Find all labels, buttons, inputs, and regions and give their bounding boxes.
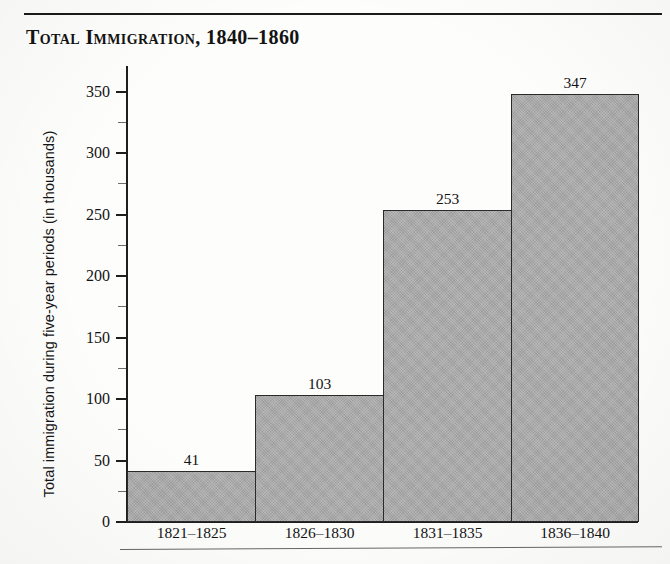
bar-1831-1835 bbox=[383, 210, 512, 522]
x-category-label-2: 1831–1835 bbox=[383, 525, 512, 541]
y-tick-minor-125 bbox=[118, 368, 126, 369]
x-category-label-0: 1821–1825 bbox=[127, 525, 256, 541]
y-tick-major-150 bbox=[116, 337, 127, 339]
x-category-label-3: 1836–1840 bbox=[511, 525, 639, 541]
y-tick-minor-325 bbox=[118, 122, 126, 123]
y-tick-label-350: 350 bbox=[66, 84, 110, 100]
bar-value-1831-1835: 253 bbox=[383, 191, 512, 207]
y-tick-minor-25 bbox=[118, 491, 126, 492]
y-axis-title: Total immigration during five-year perio… bbox=[41, 99, 57, 529]
bar-1826-1830 bbox=[255, 395, 384, 522]
y-tick-label-0: 0 bbox=[66, 514, 110, 530]
y-tick-minor-275 bbox=[118, 183, 126, 184]
bar-value-1826-1830: 103 bbox=[255, 376, 384, 392]
y-tick-minor-225 bbox=[118, 245, 126, 246]
y-tick-major-300 bbox=[116, 152, 127, 154]
y-tick-minor-175 bbox=[118, 306, 126, 307]
bar-1821-1825 bbox=[127, 471, 256, 522]
y-tick-major-50 bbox=[116, 460, 127, 462]
y-tick-minor-75 bbox=[118, 429, 126, 430]
y-tick-label-150: 150 bbox=[66, 330, 110, 346]
y-tick-label-300: 300 bbox=[66, 145, 110, 161]
bar-1836-1840 bbox=[511, 94, 639, 522]
y-tick-major-0 bbox=[116, 521, 127, 523]
y-tick-label-200: 200 bbox=[66, 268, 110, 284]
bar-value-1821-1825: 41 bbox=[127, 452, 256, 468]
y-tick-major-350 bbox=[116, 91, 127, 93]
x-category-label-1: 1826–1830 bbox=[255, 525, 384, 541]
plot-area: Total immigration during five-year perio… bbox=[0, 0, 670, 564]
chart-page: Total Immigration, 1840–1860 Total immig… bbox=[0, 0, 670, 564]
bar-value-1836-1840: 347 bbox=[511, 75, 639, 91]
y-tick-major-200 bbox=[116, 275, 127, 277]
y-tick-major-250 bbox=[116, 214, 127, 216]
y-tick-major-100 bbox=[116, 398, 127, 400]
y-tick-label-250: 250 bbox=[66, 207, 110, 223]
y-tick-label-50: 50 bbox=[66, 453, 110, 469]
y-tick-label-100: 100 bbox=[66, 391, 110, 407]
